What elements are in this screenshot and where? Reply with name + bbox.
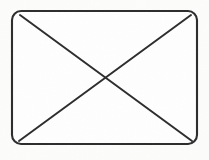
paper-grain-overlay xyxy=(0,0,209,160)
figure-canvas: Rectangle with diagonals A hand-drawn ro… xyxy=(0,0,209,160)
line-drawing: Rectangle with diagonals A hand-drawn ro… xyxy=(0,0,209,160)
